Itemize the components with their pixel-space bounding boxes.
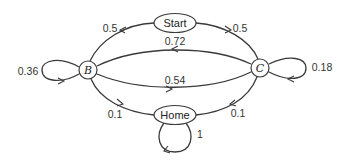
edge-b-self-loop xyxy=(42,60,79,80)
edge-home-self-loop xyxy=(159,123,191,152)
edge-c-to-b xyxy=(97,50,251,66)
edge-start-to-c xyxy=(196,23,258,59)
node-c-label: C xyxy=(256,62,265,75)
node-b-label: B xyxy=(83,64,92,77)
edge-label-c-to-home: 0.1 xyxy=(231,107,246,119)
node-c: C xyxy=(251,59,269,77)
edge-c-self-loop xyxy=(269,58,306,78)
edge-label-c-self-loop: 0.18 xyxy=(312,61,333,73)
edge-label-b-to-c: 0.54 xyxy=(165,74,186,86)
edge-c-to-home xyxy=(196,77,257,115)
edge-label-start-to-c: 0.5 xyxy=(233,22,248,34)
node-b: B xyxy=(79,61,97,79)
node-home: Home xyxy=(154,106,196,125)
node-home-label: Home xyxy=(160,109,189,121)
edge-label-b-self-loop: 0.36 xyxy=(18,65,39,77)
edge-label-home-self-loop: 1 xyxy=(197,128,203,140)
node-start: Start xyxy=(154,14,196,33)
edge-label-c-to-b: 0.72 xyxy=(165,35,186,47)
markov-chain-diagram: Start B C Home 0.5 0.5 0.72 0.54 0.36 0.… xyxy=(0,0,347,164)
edge-label-start-to-b: 0.5 xyxy=(103,22,118,34)
edge-label-b-to-home: 0.1 xyxy=(108,108,123,120)
node-start-label: Start xyxy=(163,17,186,29)
edge-b-to-home xyxy=(91,79,154,115)
